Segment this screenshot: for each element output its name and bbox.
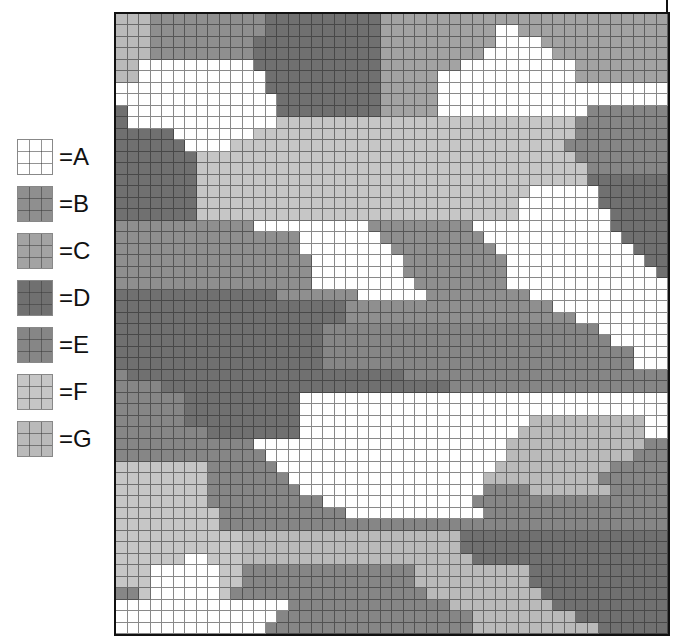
map-cell [622, 450, 634, 461]
map-cell [254, 106, 266, 117]
map-cell [185, 600, 197, 611]
map-cell [185, 565, 197, 576]
map-cell [300, 175, 312, 186]
map-cell [450, 577, 462, 588]
map-cell [381, 290, 393, 301]
map-cell [507, 427, 519, 438]
map-cell [484, 94, 496, 105]
map-cell [392, 301, 404, 312]
map-cell [634, 439, 646, 450]
map-cell [530, 14, 542, 25]
map-cell [404, 439, 416, 450]
map-cell [576, 473, 588, 484]
map-cell [484, 255, 496, 266]
map-cell [266, 290, 278, 301]
map-cell [185, 117, 197, 128]
map-cell [197, 106, 209, 117]
map-cell [128, 48, 140, 59]
map-cell [450, 370, 462, 381]
map-cell [243, 278, 255, 289]
map-cell [496, 152, 508, 163]
map-cell [254, 186, 266, 197]
map-cell [519, 347, 531, 358]
map-cell [392, 404, 404, 415]
map-cell [369, 324, 381, 335]
map-cell [116, 25, 128, 36]
map-cell [300, 255, 312, 266]
map-cell [231, 623, 243, 634]
map-cell [507, 404, 519, 415]
map-cell [657, 485, 669, 496]
map-cell [197, 519, 209, 530]
map-cell [116, 439, 128, 450]
map-cell [197, 623, 209, 634]
map-cell [231, 71, 243, 82]
legend-item-e: =E [17, 321, 92, 368]
map-cell [346, 14, 358, 25]
map-cell [484, 450, 496, 461]
map-cell [231, 473, 243, 484]
map-cell [323, 129, 335, 140]
map-cell [139, 450, 151, 461]
map-cell [645, 611, 657, 622]
map-cell [208, 473, 220, 484]
map-cell [335, 140, 347, 151]
map-cell [427, 140, 439, 151]
map-cell [553, 209, 565, 220]
map-cell [128, 301, 140, 312]
map-cell [392, 106, 404, 117]
map-cell [565, 347, 577, 358]
map-cell [542, 198, 554, 209]
map-cell [450, 335, 462, 346]
map-cell [346, 117, 358, 128]
map-cell [335, 370, 347, 381]
map-cell [450, 278, 462, 289]
map-cell [128, 83, 140, 94]
map-cell [208, 117, 220, 128]
map-cell [427, 14, 439, 25]
map-cell [277, 600, 289, 611]
map-cell [634, 94, 646, 105]
map-cell [415, 129, 427, 140]
map-cell [243, 404, 255, 415]
map-cell [254, 623, 266, 634]
map-cell [404, 416, 416, 427]
map-cell [335, 209, 347, 220]
map-cell [622, 209, 634, 220]
map-cell [496, 462, 508, 473]
map-grid [114, 12, 670, 636]
map-cell [634, 335, 646, 346]
map-cell [599, 278, 611, 289]
map-cell [438, 519, 450, 530]
map-cell [450, 163, 462, 174]
map-cell [335, 152, 347, 163]
map-cell [151, 163, 163, 174]
map-cell [162, 508, 174, 519]
map-cell [530, 186, 542, 197]
map-cell [427, 175, 439, 186]
map-cell [634, 129, 646, 140]
map-cell [381, 427, 393, 438]
map-cell [553, 381, 565, 392]
map-cell [404, 129, 416, 140]
map-cell [231, 255, 243, 266]
map-cell [369, 393, 381, 404]
map-cell [450, 152, 462, 163]
map-cell [496, 358, 508, 369]
map-cell [542, 358, 554, 369]
map-cell [576, 83, 588, 94]
map-cell [300, 542, 312, 553]
map-cell [645, 542, 657, 553]
map-cell [185, 611, 197, 622]
map-cell [530, 278, 542, 289]
map-cell [484, 186, 496, 197]
map-cell [174, 106, 186, 117]
map-cell [461, 531, 473, 542]
map-cell [415, 301, 427, 312]
map-cell [254, 209, 266, 220]
map-cell [461, 209, 473, 220]
map-cell [369, 508, 381, 519]
map-cell [519, 450, 531, 461]
map-cell [519, 163, 531, 174]
map-cell [289, 14, 301, 25]
